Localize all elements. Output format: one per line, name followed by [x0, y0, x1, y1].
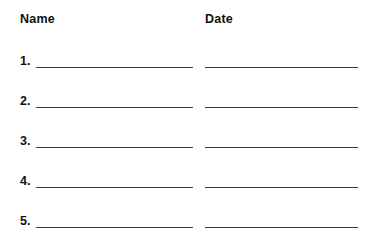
date-write-line[interactable] — [205, 67, 358, 68]
row-number: 1. — [20, 54, 30, 68]
name-write-line[interactable] — [36, 227, 193, 228]
entry-rows: 1. 2. 3. 4. 5. — [0, 0, 380, 244]
row-number: 2. — [20, 94, 30, 108]
date-write-line[interactable] — [205, 107, 358, 108]
date-write-line[interactable] — [205, 187, 358, 188]
entry-row: 4. — [0, 166, 380, 188]
date-write-line[interactable] — [205, 227, 358, 228]
entry-row: 5. — [0, 206, 380, 228]
row-number: 5. — [20, 214, 30, 228]
name-write-line[interactable] — [36, 147, 193, 148]
sign-in-sheet: Name Date 1. 2. 3. 4. 5. — [0, 0, 380, 244]
name-write-line[interactable] — [36, 107, 193, 108]
row-number: 4. — [20, 174, 30, 188]
name-write-line[interactable] — [36, 187, 193, 188]
entry-row: 3. — [0, 126, 380, 148]
date-write-line[interactable] — [205, 147, 358, 148]
row-number: 3. — [20, 134, 30, 148]
entry-row: 2. — [0, 86, 380, 108]
entry-row: 1. — [0, 46, 380, 68]
name-write-line[interactable] — [36, 67, 193, 68]
